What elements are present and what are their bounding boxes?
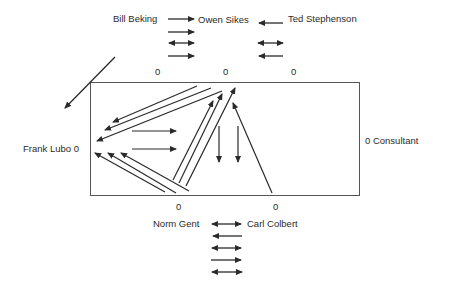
label-ted-stephenson: Ted Stephenson	[288, 13, 357, 24]
group-boundary-box	[91, 83, 360, 196]
bottom-zero-2: 0	[273, 201, 278, 212]
top-zero-3: 0	[291, 66, 296, 77]
label-frank-lubo: Frank Lubo 0	[23, 143, 79, 154]
label-owen-sikes: Owen Sikes	[198, 14, 249, 25]
inner-arrows	[95, 86, 272, 193]
norm-carl-arrows	[211, 224, 242, 272]
top-zero-2: 0	[223, 66, 228, 77]
label-norm-gent: Norm Gent	[153, 218, 199, 229]
bottom-zero-1: 0	[176, 201, 181, 212]
label-carl-colbert: Carl Colbert	[247, 218, 298, 229]
ted-owen-arrows	[258, 23, 283, 56]
label-bill-beking: Bill Beking	[113, 13, 157, 24]
top-zero-1: 0	[155, 66, 160, 77]
bill-owen-arrows	[168, 19, 194, 56]
label-consultant: 0 Consultant	[365, 135, 418, 146]
